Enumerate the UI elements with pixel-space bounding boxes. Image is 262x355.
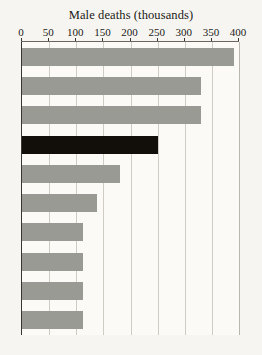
bar [22,77,201,95]
bar [22,48,234,66]
bar [22,311,83,329]
bar [22,253,83,271]
bar [22,194,97,212]
x-tick-label: 400 [230,26,247,38]
chart-title: Male deaths (thousands) [0,8,262,23]
bar [22,106,201,124]
bar [22,165,120,183]
bar-series [22,42,239,335]
bar [22,223,83,241]
x-tick-label: 300 [176,26,193,38]
x-tick-label: 350 [203,26,220,38]
x-tick-label: 150 [94,26,111,38]
x-tick-label: 100 [67,26,84,38]
plot-area [21,42,239,335]
bar [22,282,83,300]
x-tick-label: 200 [121,26,138,38]
bar-chart-figure: Male deaths (thousands) 0501001502002503… [0,0,262,355]
bar [22,136,158,154]
x-tick-label: 0 [18,26,24,38]
x-tick-label: 250 [148,26,165,38]
gridline [239,42,240,335]
x-tick-label: 50 [43,26,54,38]
